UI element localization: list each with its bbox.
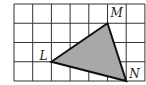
- grid-triangle-diagram: L M N: [0, 0, 146, 85]
- vertex-label-n: N: [128, 67, 140, 81]
- vertex-label-l: L: [38, 49, 47, 63]
- vertex-label-m: M: [110, 6, 124, 20]
